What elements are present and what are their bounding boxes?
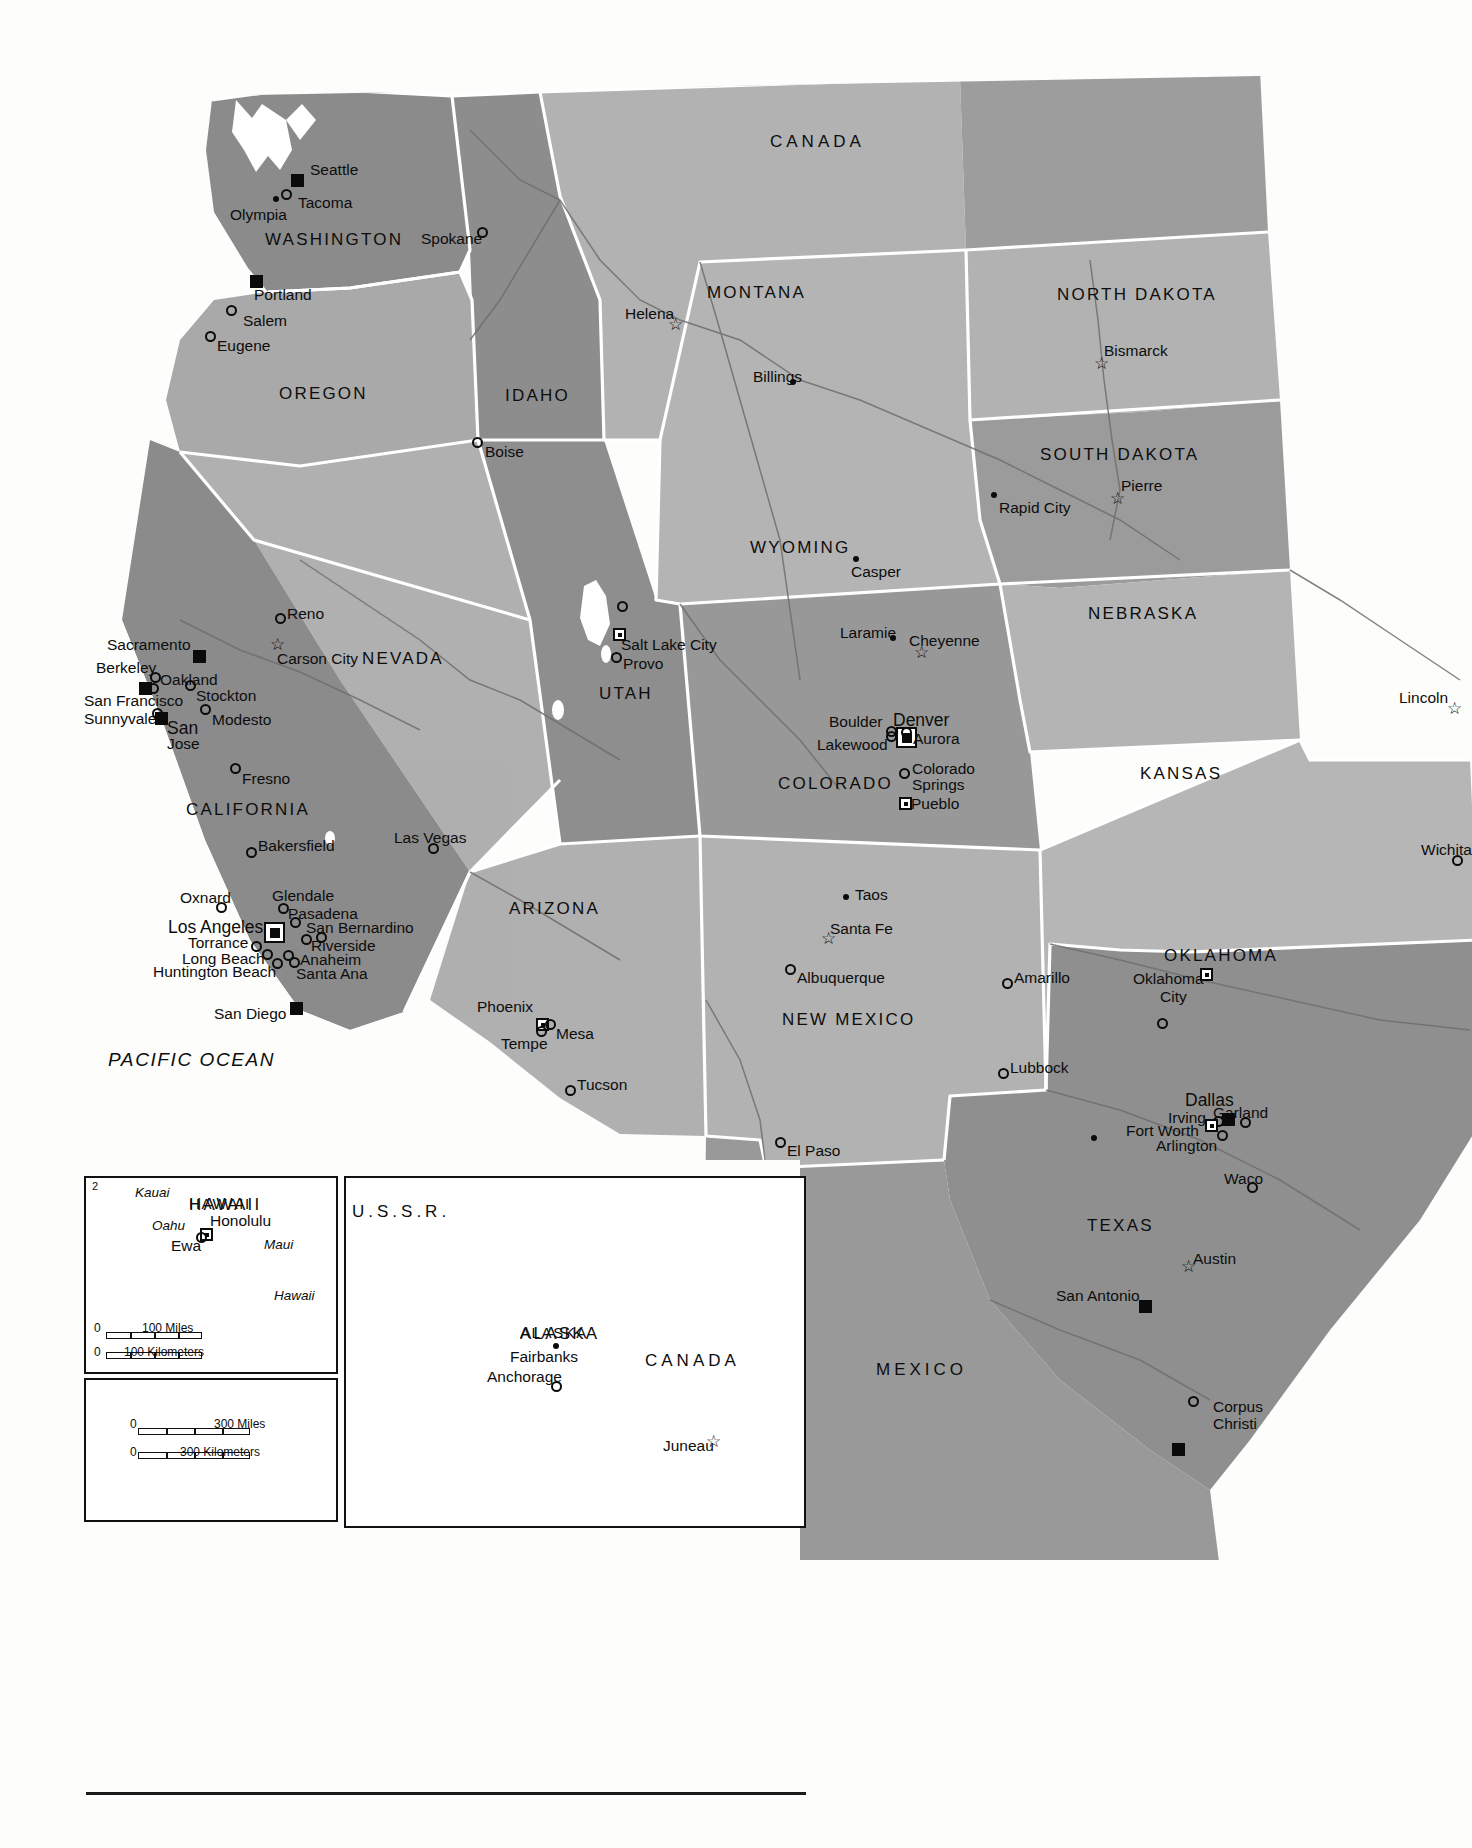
unlabeled-marker-2 [1091,1135,1097,1141]
city-marker-22 [139,682,152,695]
alaska-city-label-1: Anchorage [487,1369,562,1385]
city-marker-70 [1247,1182,1258,1193]
state-label-11: KANSAS [1140,765,1222,782]
city-label-51: Aurora [913,731,960,747]
unlabeled-marker-0 [617,601,628,612]
hawaii-inset-corner-number: 2 [92,1181,98,1192]
state-label-3: MONTANA [707,284,806,301]
city-marker-23 [185,680,196,691]
city-marker-33 [290,917,301,928]
city-label-48: Provo [623,656,664,672]
city-label-29: Bakersfield [258,838,335,854]
city-label-62: City [1160,989,1187,1005]
city-marker-59 [775,1137,786,1148]
city-marker-9 [790,379,796,385]
city-label-74: Christi [1213,1416,1257,1432]
state-label-0: WASHINGTON [265,231,403,248]
city-marker-1 [281,189,292,200]
country-label-0: CANADA [770,133,865,150]
city-label-47: Salt Lake City [621,637,717,653]
city-label-20: Berkeley [96,660,156,676]
city-label-10: Bismarck [1104,343,1168,359]
country-label-3: U.S.S.R. [352,1203,450,1220]
city-label-59: El Paso [787,1143,840,1159]
city-marker-44 [545,1019,556,1030]
alaska-city-marker-2: ☆ [706,1433,721,1450]
state-label-12: CALIFORNIA [186,801,310,818]
city-marker-7 [472,437,483,448]
city-marker-48 [611,652,622,663]
city-label-1: Tacoma [298,195,352,211]
city-marker-16: ☆ [1447,700,1462,717]
city-label-27: Modesto [212,712,271,728]
city-label-0: Seattle [310,162,358,178]
state-label-5: SOUTH DAKOTA [1040,446,1199,463]
city-marker-45 [536,1026,547,1037]
city-marker-4 [250,275,263,288]
city-marker-10: ☆ [1094,355,1109,372]
city-marker-3 [477,227,488,238]
hawaii-scale-miles-zero: 0 [94,1322,101,1334]
city-marker-64 [1452,855,1463,866]
hawaii-scale-miles-label: 100 Miles [142,1322,193,1334]
city-label-52: Lakewood [817,737,888,753]
city-marker-58 [785,964,796,975]
city-marker-42 [290,1002,303,1015]
city-label-53: Colorado [912,761,975,777]
city-label-54: Springs [912,777,965,793]
city-label-42: San Diego [214,1006,286,1022]
city-label-45: Tempe [501,1036,548,1052]
city-marker-66 [1222,1113,1235,1126]
city-label-3: Spokane [421,231,482,247]
city-label-22: San Francisco [84,693,183,709]
city-marker-8: ☆ [668,316,683,333]
city-marker-17 [275,613,286,624]
state-label-9: UTAH [599,685,653,702]
city-marker-18: ☆ [270,636,285,653]
city-marker-15: ☆ [914,644,929,661]
city-marker-71: ☆ [1181,1258,1196,1275]
city-label-2: Olympia [230,207,287,223]
city-label-69: Arlington [1156,1138,1217,1154]
hawaii-scale-km-label: 100 Kilometers [124,1346,204,1358]
hawaii-inset-title: HAWAII [189,1196,251,1211]
city-marker-52 [886,731,897,742]
city-marker-41 [289,957,300,968]
city-label-8: Helena [625,306,674,322]
city-label-40: Huntington Beach [153,964,276,980]
main-scale-km-label: 300 Kilometers [180,1446,260,1458]
city-marker-34 [264,922,285,943]
city-marker-60 [1002,978,1013,989]
city-marker-5 [226,305,237,316]
city-label-41: Santa Ana [296,966,368,982]
city-marker-6 [205,331,216,342]
city-marker-13 [853,556,859,562]
city-label-66: Dallas [1185,1092,1234,1110]
hawaii-island-label-3: Hawaii [274,1289,315,1303]
city-marker-14 [890,635,896,641]
city-label-61: Oklahoma [1133,971,1204,987]
city-label-58: Albuquerque [797,970,885,986]
city-label-56: Taos [855,887,888,903]
city-marker-53 [899,768,910,779]
city-marker-37 [301,934,312,945]
state-label-10: COLORADO [778,775,893,792]
city-label-16: Lincoln [1399,690,1448,706]
state-label-7: NEBRASKA [1088,605,1198,622]
city-marker-25 [155,712,168,725]
city-label-32: Glendale [272,888,334,904]
city-marker-65 [1240,1117,1251,1128]
bottom-divider [86,1792,806,1795]
state-label-14: NEW MEXICO [782,1011,915,1028]
state-label-1: OREGON [279,385,368,402]
state-label-13: ARIZONA [509,900,600,917]
city-label-72: San Antonio [1056,1288,1140,1304]
city-label-11: Pierre [1121,478,1162,494]
alaska-city-marker-1 [551,1381,562,1392]
state-label-8: NEVADA [362,650,444,667]
city-label-55: Pueblo [911,796,959,812]
state-label-15: OKLAHOMA [1164,947,1278,964]
city-marker-28 [230,763,241,774]
city-label-26: Jose [167,736,200,752]
city-label-23: Stockton [196,688,256,704]
